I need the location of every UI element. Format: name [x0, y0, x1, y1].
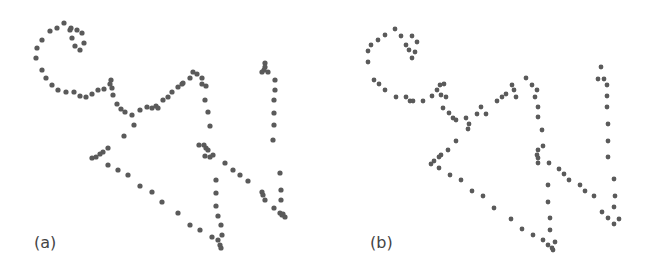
- trajectory-dot: [553, 240, 558, 245]
- trajectory-dot: [606, 216, 611, 221]
- trajectory-dot: [237, 172, 242, 177]
- trajectory-dot: [77, 47, 82, 52]
- trajectory-dot: [531, 233, 536, 238]
- trajectory-dot: [169, 89, 174, 94]
- trajectory-dot: [411, 99, 416, 104]
- trajectory-dot: [606, 122, 611, 127]
- trajectory-dot: [550, 246, 555, 251]
- trajectory-dot: [114, 101, 119, 106]
- trajectory-dot: [215, 213, 220, 218]
- trajectory-dot: [115, 167, 120, 172]
- trajectory-dot: [54, 25, 59, 30]
- trajectory-dot: [466, 127, 471, 132]
- trajectory-dot: [514, 95, 519, 100]
- trajectory-dot: [278, 187, 283, 192]
- trajectory-dot: [399, 34, 404, 39]
- trajectory-dot: [546, 200, 551, 205]
- trajectory-dot: [437, 155, 442, 160]
- trajectory-dot: [439, 93, 444, 98]
- trajectory-dot: [437, 166, 442, 171]
- trajectory-dot: [447, 111, 452, 116]
- trajectory-dot: [454, 139, 459, 144]
- trajectory-dot: [500, 95, 505, 100]
- trajectory-dot: [454, 118, 459, 123]
- trajectory-dot: [606, 155, 611, 160]
- trajectory-dot: [187, 75, 192, 80]
- trajectory-dot: [108, 77, 113, 82]
- trajectory-dot: [137, 183, 142, 188]
- trajectory-dot: [83, 94, 88, 99]
- trajectory-dot: [613, 194, 618, 199]
- trajectory-dot: [213, 177, 218, 182]
- trajectory-dot: [203, 83, 208, 88]
- trajectory-dot: [509, 217, 514, 222]
- trajectory-dot: [578, 183, 583, 188]
- trajectory-dot: [43, 75, 48, 80]
- trajectory-dot: [33, 55, 38, 60]
- trajectory-dot: [366, 60, 371, 65]
- trajectory-dot: [596, 77, 601, 82]
- trajectory-dot: [606, 139, 611, 144]
- trajectory-dot: [430, 94, 435, 99]
- trajectory-dot: [536, 148, 541, 153]
- trajectory-dot: [131, 122, 136, 127]
- trajectory-dot: [410, 56, 415, 61]
- trajectory-dot: [61, 20, 66, 25]
- trajectory-dot: [393, 27, 398, 32]
- trajectory-dot: [605, 94, 610, 99]
- trajectory-dot: [441, 106, 446, 111]
- trajectory-dot: [262, 197, 267, 202]
- trajectory-dot: [404, 43, 409, 48]
- trajectory-dot: [213, 203, 218, 208]
- trajectory-dot: [546, 183, 551, 188]
- trajectory-dot: [546, 243, 551, 248]
- trajectory-dot: [187, 222, 192, 227]
- trajectory-dot: [548, 216, 553, 221]
- trajectory-dot: [213, 190, 218, 195]
- trajectory-dot: [612, 205, 617, 210]
- trajectory-dot: [196, 142, 201, 147]
- trajectory-dot: [259, 69, 264, 74]
- trajectory-dot: [524, 76, 529, 81]
- trajectory-dot: [533, 95, 538, 100]
- trajectory-dot: [444, 95, 449, 100]
- trajectory-dot: [81, 40, 86, 45]
- trajectory-dot: [540, 128, 545, 133]
- trajectory-dot: [260, 192, 265, 197]
- trajectory-dot: [207, 123, 212, 128]
- trajectory-dot: [159, 199, 164, 204]
- trajectory-dot: [415, 40, 420, 45]
- trajectory-dot: [536, 105, 541, 110]
- trajectory-dot: [222, 160, 227, 165]
- trajectory-dot: [205, 147, 210, 152]
- trajectory-dot: [366, 49, 371, 54]
- trajectory-dot: [548, 228, 553, 233]
- trajectory-dot: [271, 97, 276, 102]
- trajectory-dot: [93, 154, 98, 159]
- trajectory-dot: [557, 167, 562, 172]
- trajectory-dot: [180, 80, 185, 85]
- trajectory-dot: [429, 162, 434, 167]
- trajectory-dot: [562, 172, 567, 177]
- trajectory-dot: [197, 227, 202, 232]
- trajectory-dot: [272, 77, 277, 82]
- trajectory-dot: [137, 107, 142, 112]
- trajectory-dot: [149, 189, 154, 194]
- trajectory-dot: [144, 104, 149, 109]
- trajectory-dot: [448, 173, 453, 178]
- trajectory-dot: [376, 38, 381, 43]
- trajectory-dot: [68, 25, 73, 30]
- trajectory-dot: [101, 86, 106, 91]
- figure-panel-b: (b): [324, 0, 649, 277]
- trajectory-dot: [446, 148, 451, 153]
- trajectory-dot: [404, 95, 409, 100]
- trajectory-dot: [459, 178, 464, 183]
- trajectory-dot: [277, 170, 282, 175]
- trajectory-dot: [605, 83, 610, 88]
- trajectory-dot: [129, 112, 134, 117]
- trajectory-dot: [280, 211, 285, 216]
- trajectory-dot: [470, 189, 475, 194]
- trajectory-dot: [605, 105, 610, 110]
- trajectory-dot: [278, 197, 283, 202]
- trajectory-dot: [199, 75, 204, 80]
